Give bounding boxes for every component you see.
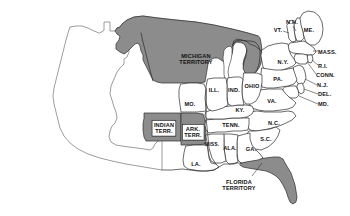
- historical-us-map: MICHIGANTERRITORY INDIANTERR. ARK.TERR. …: [0, 0, 350, 216]
- leader-rhode-island: [312, 60, 318, 65]
- state-indiana: [227, 77, 244, 106]
- indian-territory-region: [143, 113, 181, 141]
- leader-delaware: [304, 89, 318, 94]
- arkansas-territory-region: [181, 113, 206, 145]
- leader-connecticut: [307, 62, 316, 74]
- leader-maryland: [299, 96, 318, 104]
- michigan-territory-region: [115, 16, 262, 83]
- map-canvas: [0, 0, 350, 216]
- leader-new-jersey: [305, 79, 317, 85]
- state-missouri: [179, 83, 206, 112]
- florida-territory-region: [240, 157, 297, 204]
- state-maine: [299, 11, 323, 45]
- state-north-carolina: [246, 111, 296, 131]
- michigan-lower-peninsula: [233, 39, 260, 75]
- state-illinois: [206, 78, 228, 111]
- state-pennsylvania: [261, 68, 297, 88]
- state-tennessee: [205, 118, 249, 133]
